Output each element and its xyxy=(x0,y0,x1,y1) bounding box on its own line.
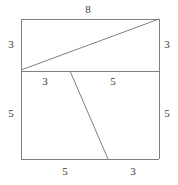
label-right-lower-height: 5 xyxy=(159,108,175,119)
label-left-lower-height: 5 xyxy=(3,108,19,119)
label-top-width: 8 xyxy=(80,4,96,15)
upper-diagonal-line xyxy=(21,19,159,70)
label-left-upper-height: 3 xyxy=(3,39,19,50)
label-mid-left-segment: 3 xyxy=(37,76,53,87)
label-bottom-right-segment: 3 xyxy=(125,166,141,177)
label-bottom-left-segment: 5 xyxy=(57,166,73,177)
figure-canvas xyxy=(0,0,178,185)
label-right-upper-height: 3 xyxy=(159,39,175,50)
lower-slant-line xyxy=(70,71,108,159)
label-mid-right-segment: 5 xyxy=(105,76,121,87)
geometry-figure: 833553553 xyxy=(0,0,178,185)
